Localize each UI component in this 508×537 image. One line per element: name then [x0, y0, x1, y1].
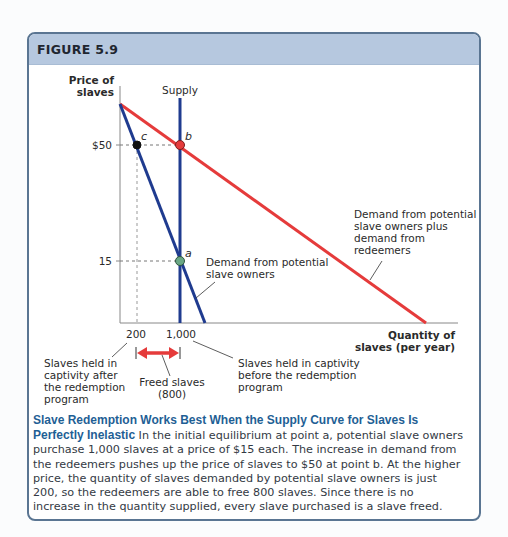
freed-arrow-right-head: [169, 347, 179, 359]
before-label-3: program: [238, 381, 283, 393]
y-axis-label-1: Price of: [69, 74, 115, 86]
freed-label-1: Freed slaves: [139, 376, 204, 388]
freed-arrow-left-head: [137, 347, 147, 359]
demand-owners-label-2: slave owners: [206, 268, 275, 280]
chart: c b a Price of slaves Supply $50 15 200 …: [0, 0, 508, 410]
point-b: [176, 141, 185, 150]
label-a: a: [185, 247, 192, 260]
demand-owners-line: [120, 104, 205, 323]
point-a: [176, 257, 185, 266]
freed-label-2: (800): [158, 388, 186, 400]
after-leader: [112, 343, 127, 357]
demand-owners-label-1: Demand from potential: [206, 256, 328, 268]
x-axis-label-1: Quantity of: [388, 329, 455, 341]
supply-label: Supply: [162, 84, 198, 96]
point-c: [133, 141, 141, 149]
demand-total-leader: [370, 261, 382, 280]
demand-owners-leader: [196, 282, 215, 298]
after-label-2: captivity after: [44, 369, 118, 381]
tick-label-1000: 1,000: [166, 328, 196, 340]
before-label-1: Slaves held in captivity: [238, 357, 360, 369]
y-axis-label-2: slaves: [77, 86, 114, 98]
freed-leader: [162, 355, 170, 376]
x-axis-label-2: slaves (per year): [355, 341, 455, 353]
tick-label-50: $50: [92, 139, 112, 151]
after-label-4: program: [44, 393, 89, 405]
demand-total-label-2: slave owners plus: [354, 220, 448, 232]
demand-total-label-1: Demand from potential: [354, 208, 476, 220]
demand-total-label-4: redeemers: [354, 244, 411, 256]
tick-label-200: 200: [126, 328, 146, 340]
after-label-1: Slaves held in: [44, 357, 117, 369]
label-c: c: [141, 130, 147, 143]
after-label-3: the redemption: [44, 381, 125, 393]
before-label-2: before the redemption: [238, 369, 356, 381]
before-leader: [193, 341, 233, 358]
demand-total-label-3: demand from: [354, 232, 425, 244]
label-b: b: [185, 130, 192, 143]
tick-label-15: 15: [99, 255, 112, 267]
figure-caption: Slave Redemption Works Best When the Sup…: [33, 413, 463, 514]
